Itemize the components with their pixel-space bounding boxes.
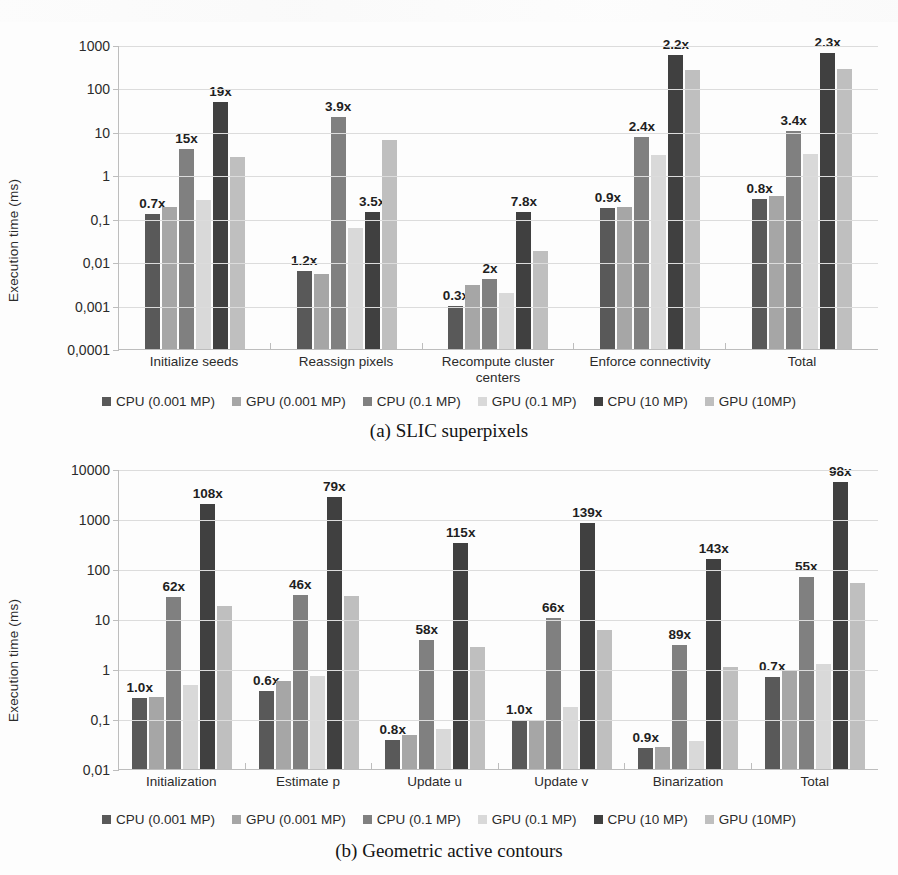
- bar[interactable]: [132, 698, 147, 769]
- bar[interactable]: [833, 482, 848, 769]
- bar[interactable]: [297, 271, 312, 349]
- bar[interactable]: [706, 559, 721, 769]
- bar[interactable]: [655, 747, 670, 769]
- bar[interactable]: [638, 748, 653, 769]
- legend-item[interactable]: CPU (0.001 MP): [102, 394, 215, 409]
- bar[interactable]: [752, 199, 767, 349]
- legend-swatch-icon: [478, 397, 487, 406]
- bar[interactable]: [348, 228, 363, 349]
- bar[interactable]: [200, 504, 215, 769]
- legend-item[interactable]: CPU (0.001 MP): [102, 812, 215, 827]
- bar[interactable]: [419, 640, 434, 769]
- bar-slot: [837, 46, 852, 349]
- bar[interactable]: [183, 685, 198, 769]
- legend-item[interactable]: CPU (10 MP): [594, 394, 688, 409]
- legend-label: GPU (0.1 MP): [492, 812, 577, 827]
- bar[interactable]: [499, 293, 514, 350]
- bar[interactable]: [436, 729, 451, 769]
- bar[interactable]: [516, 212, 531, 349]
- legend-label: CPU (0.001 MP): [116, 394, 215, 409]
- bar[interactable]: [563, 707, 578, 769]
- bar[interactable]: [723, 667, 738, 769]
- legend-item[interactable]: GPU (0.1 MP): [478, 394, 577, 409]
- bar[interactable]: [453, 543, 468, 769]
- bar-group: 0.9x2.4x2.2x: [574, 46, 726, 349]
- gridline: [119, 570, 878, 571]
- bar-groups-a: 0.7x15x19x1.2x3.9x3.5x0.3x2x7.8x0.9x2.4x…: [119, 46, 878, 349]
- bar[interactable]: [385, 740, 400, 769]
- bar[interactable]: [344, 596, 359, 769]
- bar-value-label: 55x: [795, 559, 818, 574]
- bar-slot: 0.8x: [752, 46, 767, 349]
- bar[interactable]: [217, 606, 232, 769]
- bar-group: 1.2x3.9x3.5x: [271, 46, 423, 349]
- y-axis-tick-label: 10: [94, 612, 110, 628]
- bar[interactable]: [448, 306, 463, 349]
- bar[interactable]: [259, 691, 274, 769]
- bar[interactable]: [145, 214, 160, 349]
- bar-group: 0.8x3.4x2.3x: [726, 46, 878, 349]
- bar[interactable]: [580, 523, 595, 769]
- bar-group: 0.7x15x19x: [119, 46, 271, 349]
- legend-item[interactable]: GPU (0.001 MP): [232, 812, 346, 827]
- bar[interactable]: [162, 207, 177, 349]
- bar[interactable]: [482, 279, 497, 349]
- bar[interactable]: [149, 697, 164, 769]
- legend-item[interactable]: CPU (0.1 MP): [363, 394, 461, 409]
- bar[interactable]: [600, 208, 615, 349]
- bar[interactable]: [166, 597, 181, 769]
- gridline: [119, 307, 878, 308]
- bar[interactable]: [850, 583, 865, 769]
- legend-item[interactable]: GPU (10MP): [705, 812, 796, 827]
- bar[interactable]: [293, 595, 308, 769]
- bar[interactable]: [672, 645, 687, 769]
- gridline: [119, 620, 878, 621]
- bar[interactable]: [765, 677, 780, 769]
- bar[interactable]: [470, 647, 485, 769]
- bar[interactable]: [512, 720, 527, 769]
- chart-area-a: 0.7x15x19x1.2x3.9x3.5x0.3x2x7.8x0.9x2.4x…: [0, 22, 898, 372]
- bar[interactable]: [617, 207, 632, 349]
- bar[interactable]: [799, 577, 814, 769]
- bar[interactable]: [803, 154, 818, 349]
- bar[interactable]: [820, 53, 835, 349]
- bar[interactable]: [689, 741, 704, 769]
- bar[interactable]: [816, 664, 831, 769]
- bar[interactable]: [179, 149, 194, 349]
- legend-label: GPU (10MP): [719, 394, 796, 409]
- bar[interactable]: [230, 157, 245, 349]
- bar-slot: [162, 46, 177, 349]
- bar[interactable]: [314, 274, 329, 349]
- bar-group: 0.3x2x7.8x: [423, 46, 575, 349]
- bar[interactable]: [533, 251, 548, 349]
- legend-item[interactable]: GPU (0.001 MP): [232, 394, 346, 409]
- bar[interactable]: [365, 212, 380, 349]
- bar[interactable]: [382, 140, 397, 349]
- bar[interactable]: [213, 102, 228, 349]
- bar[interactable]: [651, 155, 666, 349]
- legend-item[interactable]: CPU (10 MP): [594, 812, 688, 827]
- gridline: [119, 220, 878, 221]
- legend-label: GPU (10MP): [719, 812, 796, 827]
- bar[interactable]: [310, 676, 325, 769]
- bar[interactable]: [465, 285, 480, 349]
- y-tick-mark: [113, 46, 119, 47]
- plot-region-a: 0.7x15x19x1.2x3.9x3.5x0.3x2x7.8x0.9x2.4x…: [118, 46, 878, 350]
- legend-swatch-icon: [705, 397, 714, 406]
- bar[interactable]: [327, 497, 342, 769]
- bar[interactable]: [331, 117, 346, 349]
- bar[interactable]: [402, 735, 417, 769]
- bar[interactable]: [634, 137, 649, 349]
- legend-label: GPU (0.001 MP): [246, 812, 346, 827]
- bar[interactable]: [546, 618, 561, 769]
- legend-item[interactable]: CPU (0.1 MP): [363, 812, 461, 827]
- bar[interactable]: [196, 200, 211, 349]
- legend-item[interactable]: GPU (0.1 MP): [478, 812, 577, 827]
- bar[interactable]: [786, 131, 801, 349]
- legend-item[interactable]: GPU (10MP): [705, 394, 796, 409]
- scan-artifact-band: [0, 0, 898, 22]
- bar[interactable]: [597, 630, 612, 769]
- bar[interactable]: [668, 55, 683, 349]
- bar[interactable]: [276, 681, 291, 769]
- bar[interactable]: [529, 720, 544, 769]
